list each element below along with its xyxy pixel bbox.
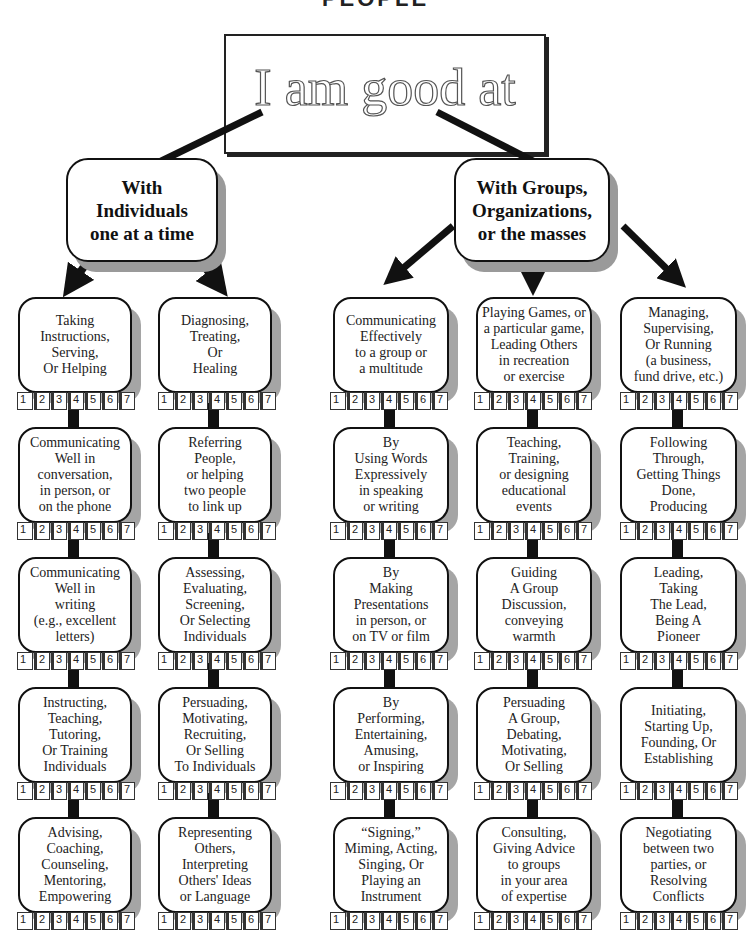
rating-cell[interactable]: 3: [654, 912, 670, 930]
rating-cell[interactable]: 5: [398, 522, 414, 540]
rating-cell[interactable]: 5: [398, 912, 414, 930]
rating-cell[interactable]: 7: [432, 782, 448, 800]
rating-cell[interactable]: 2: [491, 392, 507, 410]
rating-cell[interactable]: 7: [119, 652, 135, 670]
rating-cell[interactable]: 1: [620, 782, 636, 800]
rating-cell[interactable]: 4: [209, 522, 225, 540]
rating-cell[interactable]: 6: [415, 652, 431, 670]
rating-cell[interactable]: 7: [260, 522, 276, 540]
rating-cell[interactable]: 2: [347, 912, 363, 930]
rating-cell[interactable]: 2: [637, 522, 653, 540]
rating-cell[interactable]: 5: [542, 522, 558, 540]
rating-cell[interactable]: 6: [243, 782, 259, 800]
rating-cell[interactable]: 4: [381, 522, 397, 540]
rating-cell[interactable]: 4: [671, 522, 687, 540]
rating-cell[interactable]: 7: [260, 652, 276, 670]
rating-cell[interactable]: 2: [491, 522, 507, 540]
rating-cell[interactable]: 6: [705, 912, 721, 930]
rating-cell[interactable]: 4: [671, 392, 687, 410]
rating-cell[interactable]: 7: [119, 522, 135, 540]
rating-cell[interactable]: 2: [637, 652, 653, 670]
rating-cell[interactable]: 4: [68, 912, 84, 930]
rating-cell[interactable]: 2: [347, 782, 363, 800]
rating-cell[interactable]: 4: [525, 652, 541, 670]
rating-cell[interactable]: 2: [637, 392, 653, 410]
rating-cell[interactable]: 6: [559, 782, 575, 800]
rating-cell[interactable]: 7: [119, 782, 135, 800]
rating-cell[interactable]: 4: [525, 392, 541, 410]
rating-cell[interactable]: 2: [347, 392, 363, 410]
rating-cell[interactable]: 4: [671, 912, 687, 930]
rating-cell[interactable]: 4: [381, 392, 397, 410]
rating-cell[interactable]: 6: [415, 522, 431, 540]
rating-cell[interactable]: 2: [491, 912, 507, 930]
rating-cell[interactable]: 6: [705, 392, 721, 410]
rating-cell[interactable]: 3: [364, 522, 380, 540]
rating-cell[interactable]: 3: [192, 652, 208, 670]
rating-cell[interactable]: 4: [381, 782, 397, 800]
rating-cell[interactable]: 3: [51, 782, 67, 800]
rating-cell[interactable]: 3: [654, 782, 670, 800]
rating-cell[interactable]: 4: [68, 522, 84, 540]
rating-cell[interactable]: 6: [705, 782, 721, 800]
rating-cell[interactable]: 6: [243, 652, 259, 670]
rating-cell[interactable]: 3: [192, 782, 208, 800]
rating-cell[interactable]: 6: [243, 522, 259, 540]
rating-cell[interactable]: 7: [260, 392, 276, 410]
rating-cell[interactable]: 5: [688, 522, 704, 540]
rating-cell[interactable]: 7: [722, 392, 738, 410]
rating-cell[interactable]: 7: [576, 782, 592, 800]
rating-cell[interactable]: 1: [474, 782, 490, 800]
rating-cell[interactable]: 5: [398, 652, 414, 670]
rating-cell[interactable]: 3: [508, 392, 524, 410]
rating-cell[interactable]: 1: [474, 392, 490, 410]
rating-cell[interactable]: 7: [722, 652, 738, 670]
rating-cell[interactable]: 6: [559, 392, 575, 410]
rating-cell[interactable]: 2: [637, 912, 653, 930]
rating-cell[interactable]: 1: [330, 652, 346, 670]
rating-cell[interactable]: 1: [330, 782, 346, 800]
rating-cell[interactable]: 5: [542, 782, 558, 800]
rating-cell[interactable]: 7: [576, 522, 592, 540]
rating-cell[interactable]: 2: [175, 392, 191, 410]
rating-cell[interactable]: 1: [17, 652, 33, 670]
rating-cell[interactable]: 5: [226, 782, 242, 800]
rating-cell[interactable]: 6: [705, 652, 721, 670]
rating-cell[interactable]: 3: [51, 392, 67, 410]
rating-cell[interactable]: 7: [119, 392, 135, 410]
rating-cell[interactable]: 3: [654, 392, 670, 410]
rating-cell[interactable]: 1: [158, 522, 174, 540]
rating-cell[interactable]: 7: [260, 912, 276, 930]
rating-cell[interactable]: 2: [491, 652, 507, 670]
rating-cell[interactable]: 1: [620, 912, 636, 930]
rating-cell[interactable]: 5: [688, 782, 704, 800]
rating-cell[interactable]: 5: [398, 782, 414, 800]
rating-cell[interactable]: 3: [508, 912, 524, 930]
rating-cell[interactable]: 2: [34, 652, 50, 670]
rating-cell[interactable]: 5: [85, 652, 101, 670]
rating-cell[interactable]: 2: [34, 912, 50, 930]
rating-cell[interactable]: 4: [209, 652, 225, 670]
rating-cell[interactable]: 2: [175, 782, 191, 800]
rating-cell[interactable]: 1: [158, 392, 174, 410]
rating-cell[interactable]: 6: [705, 522, 721, 540]
rating-cell[interactable]: 1: [474, 652, 490, 670]
rating-cell[interactable]: 5: [226, 392, 242, 410]
rating-cell[interactable]: 3: [508, 652, 524, 670]
rating-cell[interactable]: 1: [158, 652, 174, 670]
rating-cell[interactable]: 4: [381, 912, 397, 930]
rating-cell[interactable]: 3: [51, 652, 67, 670]
rating-cell[interactable]: 5: [542, 652, 558, 670]
rating-cell[interactable]: 5: [85, 782, 101, 800]
rating-cell[interactable]: 5: [398, 392, 414, 410]
rating-cell[interactable]: 2: [175, 912, 191, 930]
rating-cell[interactable]: 5: [85, 392, 101, 410]
rating-cell[interactable]: 4: [209, 392, 225, 410]
rating-cell[interactable]: 5: [226, 522, 242, 540]
rating-cell[interactable]: 7: [432, 652, 448, 670]
rating-cell[interactable]: 5: [542, 392, 558, 410]
rating-cell[interactable]: 1: [158, 912, 174, 930]
rating-cell[interactable]: 3: [654, 522, 670, 540]
rating-cell[interactable]: 6: [559, 652, 575, 670]
rating-cell[interactable]: 5: [688, 392, 704, 410]
